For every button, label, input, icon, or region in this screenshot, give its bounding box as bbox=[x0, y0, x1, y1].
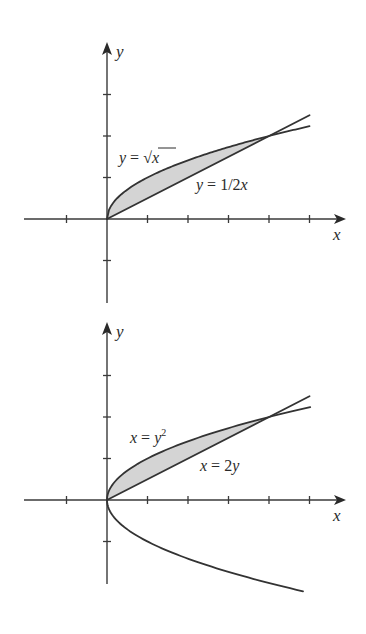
label-sqrt-x: y = √x bbox=[117, 149, 159, 167]
label-x-eq-y-squared: x = y2 bbox=[129, 427, 166, 447]
shaded-region bbox=[107, 417, 269, 500]
line-x-eq-2y bbox=[107, 396, 310, 500]
label-x-eq-2y: x = 2y bbox=[199, 457, 240, 475]
label-half-x: y = 1/2x bbox=[194, 176, 248, 194]
y-axis-arrow-icon bbox=[102, 322, 112, 335]
graph-sqrt-vs-half-x: y x y = √x y = 1/2x bbox=[0, 0, 366, 310]
y-axis-label: y bbox=[114, 322, 124, 341]
x-axis-label: x bbox=[332, 506, 341, 525]
axis-ticks bbox=[67, 376, 310, 542]
line-half-x bbox=[107, 115, 310, 219]
curve-x-eq-y-squared bbox=[107, 407, 310, 591]
x-axis-arrow-icon bbox=[334, 495, 346, 505]
x-axis-label: x bbox=[332, 225, 341, 244]
curve-sqrt-x bbox=[107, 126, 310, 219]
y-axis-label: y bbox=[114, 42, 124, 61]
